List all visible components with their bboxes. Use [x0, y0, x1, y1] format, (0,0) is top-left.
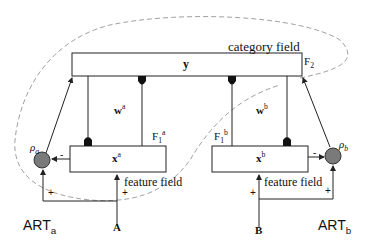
sign-plus-a-1: +	[48, 188, 54, 198]
sign-minus-b: -	[313, 148, 316, 158]
layer-f2-label: F2	[304, 56, 314, 67]
layer-f1b-label: F1b	[214, 131, 228, 142]
feature-node-xb: xb	[256, 153, 265, 164]
feature-node-xa: xa	[112, 153, 121, 164]
feature-field-a-label: feature field	[124, 176, 182, 188]
input-b-label: B	[255, 225, 262, 236]
adaptive-synapse-b-bottom	[283, 137, 291, 146]
weights-a-label: wa	[114, 105, 125, 116]
weights-b-label: wb	[256, 105, 268, 116]
vigilance-b-label: ρb	[339, 139, 348, 150]
category-field-label: category field	[228, 40, 300, 53]
sign-plus-b-1: +	[250, 188, 256, 198]
layer-f1a-label: F1a	[152, 131, 165, 142]
vigilance-a-label: ρa	[30, 142, 39, 153]
input-a-label: A	[113, 222, 121, 233]
category-node-y: y	[183, 58, 189, 70]
sign-plus-a-2: +	[122, 188, 128, 198]
module-arta-label: ARTa	[23, 218, 56, 232]
vigilance-node-b	[325, 148, 341, 164]
feature-field-b-label: feature field	[264, 176, 322, 188]
module-artb-label: ARTb	[318, 218, 351, 232]
adaptive-synapse-b-top	[228, 76, 236, 85]
sign-plus-b-2: +	[325, 186, 331, 196]
diagram-canvas	[0, 0, 369, 243]
adaptive-synapse-a-bottom	[84, 137, 92, 146]
sign-minus-a: -	[60, 150, 63, 160]
adaptive-synapse-a-top	[138, 76, 146, 85]
